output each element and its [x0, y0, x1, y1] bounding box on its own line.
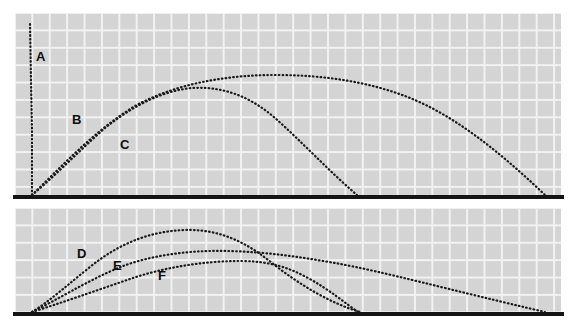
- figure-root: A B C D E F: [0, 0, 571, 326]
- curve-label-b: B: [72, 113, 81, 126]
- axis-baseline-bottom: [13, 312, 564, 316]
- curve-label-e: E: [113, 259, 122, 272]
- plot-area-bottom: [15, 208, 561, 312]
- curve-label-f: F: [158, 269, 166, 282]
- plot-area-top: [15, 13, 561, 195]
- curve-label-c: C: [120, 138, 129, 151]
- curve-label-a: A: [36, 50, 45, 63]
- chart-panel-bottom: D E F: [0, 205, 571, 326]
- axis-baseline-top: [13, 195, 564, 199]
- chart-panel-top: A B C: [0, 0, 571, 200]
- curve-label-d: D: [77, 247, 86, 260]
